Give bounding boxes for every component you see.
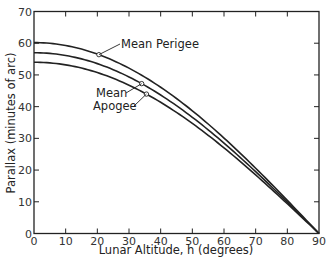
- annotations: Mean Perigee Mean Apogee: [93, 37, 199, 113]
- annotation-apogee: Apogee: [93, 99, 137, 113]
- parallax-chart: 0102030405060708090010203040506070 Mean …: [0, 0, 333, 263]
- y-tick-label: 0: [25, 228, 32, 241]
- y-tick-label: 20: [18, 164, 32, 177]
- y-tick-label: 10: [18, 196, 32, 209]
- data-curves: [34, 43, 319, 234]
- y-tick-label: 60: [18, 37, 32, 50]
- annotation-mean: Mean: [96, 86, 127, 100]
- curve-mean: [34, 53, 319, 234]
- curve-mean-perigee: [34, 43, 319, 234]
- x-tick-label: 10: [59, 235, 73, 248]
- y-tick-label: 50: [18, 69, 32, 82]
- annotation-leader: [99, 44, 120, 55]
- y-tick-label: 70: [18, 6, 32, 19]
- y-tick-label: 40: [18, 101, 32, 114]
- curve-apogee: [34, 62, 319, 233]
- x-tick-label: 90: [312, 235, 326, 248]
- y-tick-label: 30: [18, 132, 32, 145]
- x-axis-label: Lunar Altitude, h (degrees): [99, 243, 254, 257]
- y-axis-label: Parallax (minutes of arc): [4, 53, 18, 194]
- x-tick-label: 80: [280, 235, 294, 248]
- annotation-mean-perigee: Mean Perigee: [121, 37, 199, 51]
